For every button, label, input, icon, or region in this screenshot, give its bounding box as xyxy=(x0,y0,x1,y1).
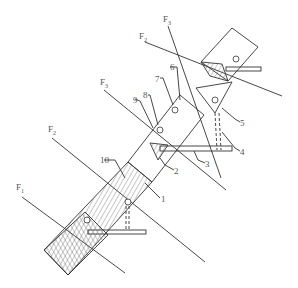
label-part-1: 1 xyxy=(161,195,166,204)
label-part-2: 2 xyxy=(174,167,179,176)
label-part-9: 9 xyxy=(133,96,138,105)
lamp-icon xyxy=(233,56,239,62)
lamp-icon xyxy=(212,97,218,103)
lamp-icon xyxy=(84,217,90,223)
label-part-7: 7 xyxy=(155,75,160,84)
label-part-6: 6 xyxy=(170,63,175,72)
lamp-icon xyxy=(125,199,131,205)
label-part-4: 4 xyxy=(240,148,245,157)
label-part-5: 5 xyxy=(240,119,245,128)
top-hatch xyxy=(201,62,228,81)
label-f3-top: F3 xyxy=(163,15,171,26)
label-f2-top: F2 xyxy=(139,32,147,43)
label-f1: F1 xyxy=(16,183,24,194)
label-f3-left: F3 xyxy=(100,78,108,89)
seam-band-upper xyxy=(128,95,204,182)
lamp-icon xyxy=(172,107,178,113)
label-part-3: 3 xyxy=(205,160,210,169)
platform-upper xyxy=(226,67,261,71)
diagram-canvas xyxy=(0,0,298,288)
label-part-10: 10 xyxy=(100,156,109,165)
label-part-8: 8 xyxy=(143,91,148,100)
label-f2-left: F2 xyxy=(48,125,56,136)
lamp-icon xyxy=(157,127,163,133)
